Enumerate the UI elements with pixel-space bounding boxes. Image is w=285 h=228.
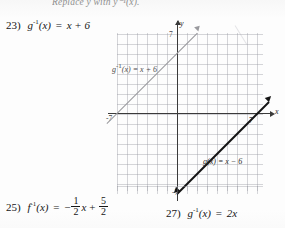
line-g-arrow-top-icon: [265, 94, 273, 102]
problem-27-rhs: 2x: [227, 207, 237, 219]
x-axis: [108, 113, 272, 114]
problem-23-argument: (x): [39, 19, 51, 31]
y-axis-label: y: [180, 19, 184, 28]
problem-25-number: 25): [6, 201, 21, 213]
problem-25-fraction-one-half: 12: [71, 196, 80, 217]
line-g-inverse-arrow-icon: [194, 24, 202, 32]
problem-25-frac2-denominator: 2: [99, 206, 108, 217]
problem-25-frac1-numerator: 1: [71, 196, 80, 206]
y-axis-tick-7: 7: [169, 30, 173, 39]
problem-25-frac2-numerator: 5: [99, 196, 108, 206]
problem-25-argument: (x): [36, 201, 48, 213]
problem-25-variable: x: [81, 201, 86, 213]
problem-25: 25) f-1(x) = −12x + 52: [6, 196, 109, 217]
label-g-rest: (x) = x − 6: [207, 157, 242, 166]
label-g-inverse-rest: (x) = x + 6: [122, 65, 157, 74]
problem-25-sign: −: [64, 201, 70, 213]
clipped-header-text: Replace y with y⁻¹(x).: [52, 0, 212, 8]
problem-23: 23) g-1(x) = x + 6: [6, 18, 90, 31]
graph-grid: [117, 33, 263, 191]
label-g: g(x) = x − 6: [203, 157, 242, 166]
problem-25-fraction-five-halves: 52: [99, 196, 108, 217]
problem-27-equals: =: [214, 207, 224, 219]
problem-27-number: 27): [166, 207, 181, 219]
problem-25-equals: =: [51, 201, 61, 213]
problem-23-rhs: x + 6: [67, 19, 90, 31]
y-axis: [177, 21, 178, 201]
label-g-inverse: g-1(x) = x + 6: [112, 62, 157, 74]
x-axis-label: x: [275, 107, 279, 116]
clipped-next-graph-grid: [117, 186, 263, 194]
problem-25-plus: +: [89, 201, 95, 213]
problem-23-equals: =: [54, 19, 64, 31]
problem-23-number: 23): [6, 19, 21, 31]
worksheet-page: Replace y with y⁻¹(x). 23) g-1(x) = x + …: [0, 0, 285, 228]
coordinate-graph: x y 7 7 -7 -7 g-1(x) = x + 6 g(x) = x − …: [117, 33, 263, 191]
problem-25-frac1-denominator: 2: [71, 206, 80, 217]
problem-27-argument: (x): [199, 207, 211, 219]
problem-27: 27) g-1(x) = 2x: [166, 206, 237, 219]
